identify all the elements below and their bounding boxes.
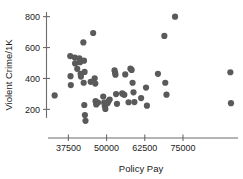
data-point <box>92 75 98 81</box>
data-point <box>107 97 113 103</box>
data-point <box>227 69 233 75</box>
data-point <box>122 71 128 77</box>
data-point <box>52 92 58 98</box>
data-point <box>131 99 137 105</box>
data-point <box>81 80 87 86</box>
x-tick-label: 62500 <box>132 143 157 153</box>
data-point <box>90 30 96 36</box>
y-axis: 200400600800 <box>25 12 50 118</box>
y-axis-title: Violent Crime/1K <box>3 39 14 111</box>
y-tick-label: 200 <box>25 105 40 115</box>
x-tick-label: 37500 <box>56 143 81 153</box>
data-point <box>161 33 167 39</box>
data-point <box>113 91 119 97</box>
data-point <box>95 99 101 105</box>
x-axis-title: Policy Pay <box>119 163 164 174</box>
data-point <box>172 14 178 20</box>
data-point <box>68 82 74 88</box>
data-point <box>81 69 87 75</box>
x-tick-label: 75000 <box>170 143 195 153</box>
data-point <box>228 100 234 106</box>
data-point <box>143 84 149 90</box>
x-axis: 37500500006250075000 <box>48 135 238 153</box>
data-point <box>138 95 144 101</box>
data-point <box>81 58 87 64</box>
data-points <box>52 14 235 124</box>
data-point <box>125 99 131 105</box>
y-tick-label: 600 <box>25 43 40 53</box>
data-point <box>155 71 161 77</box>
data-point <box>102 106 108 112</box>
data-point <box>162 80 168 86</box>
data-point <box>92 80 98 86</box>
data-point <box>130 89 136 95</box>
data-point <box>129 67 135 73</box>
x-tick-label: 50000 <box>94 143 119 153</box>
data-point <box>129 80 135 86</box>
data-point <box>67 73 73 79</box>
data-point <box>121 92 127 98</box>
data-point <box>81 102 87 108</box>
data-point <box>100 93 106 99</box>
y-tick-label: 800 <box>25 12 40 22</box>
data-point <box>80 39 86 45</box>
data-point <box>114 101 120 107</box>
plot-area: 200400600800 37500500006250075000 Policy… <box>0 0 243 179</box>
data-point <box>82 112 88 118</box>
data-point <box>144 103 150 109</box>
data-point <box>112 72 118 78</box>
data-point <box>82 118 88 124</box>
y-tick-label: 400 <box>25 74 40 84</box>
scatter-chart: 200400600800 37500500006250075000 Policy… <box>0 0 243 179</box>
data-point <box>163 92 169 98</box>
